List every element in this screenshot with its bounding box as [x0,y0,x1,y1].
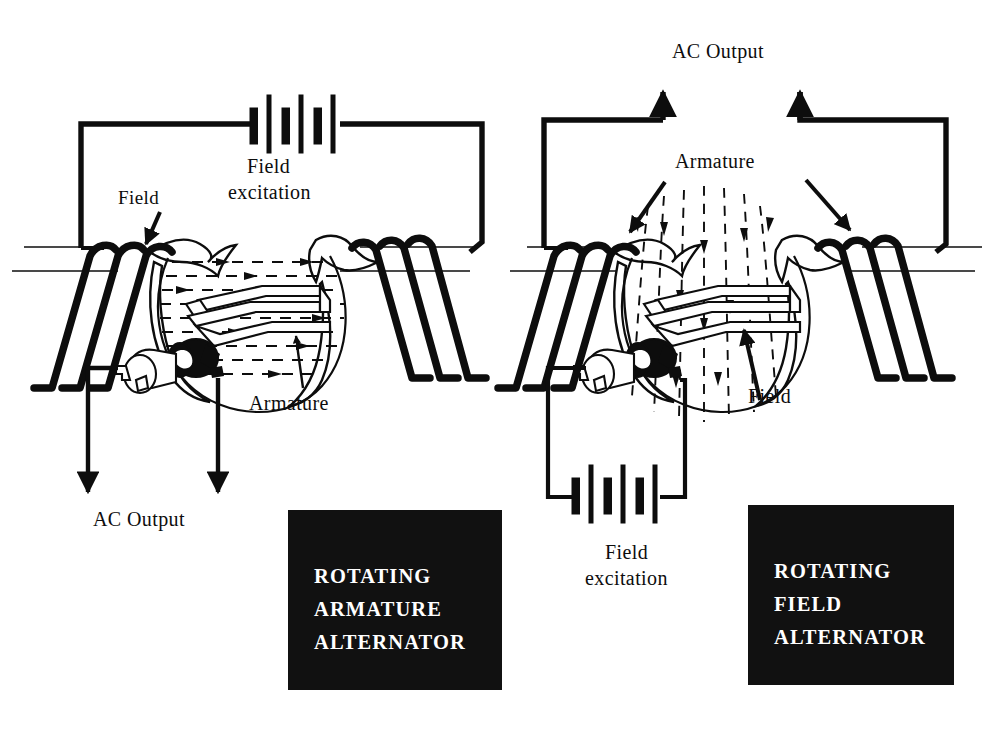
right-caption-line-1: ROTATING [774,555,926,588]
left-caption-line-1: ROTATING [314,560,466,593]
left-field-leader-arrow [146,212,160,244]
left-caption-line-2: ARMATURE [314,593,466,626]
left-caption-plate: ROTATING ARMATURE ALTERNATOR [288,510,502,690]
left-field-label: Field [118,187,159,208]
figure-canvas: Field Field excitation Armature AC Outpu… [0,0,1005,734]
right-ac-output-label: AC Output [672,40,764,62]
left-ac-output-label: AC Output [93,508,185,530]
left-right-field-coil-winding [352,238,486,378]
right-field-label: Field [748,385,791,407]
left-shaft-and-bearing [116,350,176,393]
right-battery-symbol [572,465,657,523]
right-right-stator-coil-winding [818,238,952,378]
left-ground-shadow [10,540,310,708]
left-battery-symbol [250,95,335,153]
right-field-excitation-label-line2: excitation [585,567,668,589]
right-caption-line-3: ALTERNATOR [774,621,926,654]
left-caption-line-3: ALTERNATOR [314,626,466,659]
left-field-excitation-label-line2: excitation [228,181,311,203]
left-field-excitation-label-line1: Field [247,155,290,177]
left-armature-label: Armature [249,392,329,414]
right-caption-plate: ROTATING FIELD ALTERNATOR [748,505,954,685]
right-field-excitation-label-line1: Field [605,541,648,563]
right-armature-label: Armature [675,150,755,172]
right-caption-line-2: FIELD [774,588,926,621]
